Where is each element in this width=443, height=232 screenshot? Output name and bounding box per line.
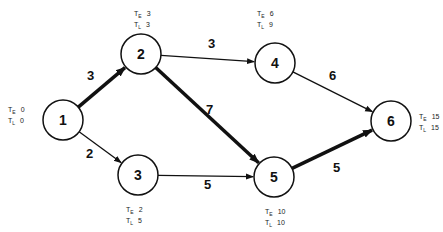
edge-weight-label: 6 — [329, 68, 336, 83]
node-1: 1TE0TL0 — [8, 100, 83, 140]
edge-weight-label: 5 — [204, 177, 211, 192]
node-label: 6 — [387, 113, 395, 129]
edge-weight-label: 5 — [333, 160, 340, 175]
edge-weight-label: 2 — [86, 146, 93, 161]
node-label: 1 — [59, 112, 67, 128]
node-label: 2 — [137, 46, 145, 62]
node-label: 4 — [271, 55, 279, 71]
early-time-label: TE3 — [134, 10, 151, 19]
early-time-label: TE15 — [419, 113, 440, 122]
edge-2-4 — [161, 55, 254, 61]
edge-1-2 — [78, 68, 125, 108]
early-time-label: TE10 — [265, 208, 286, 217]
network-diagram: 3237565 1TE0TL02TE3TL33TE2TL54TE6TL95TE1… — [0, 0, 443, 232]
node-label: 5 — [270, 169, 278, 185]
late-time-label: TL9 — [257, 21, 273, 30]
late-time-label: TL10 — [265, 219, 285, 228]
late-time-label: TL15 — [419, 124, 439, 133]
node-label: 3 — [134, 167, 142, 183]
late-time-label: TL0 — [8, 117, 24, 126]
node-5: 5TE10TL10 — [254, 157, 294, 228]
edge-weight-label: 3 — [87, 68, 94, 83]
edge-weight-label: 3 — [208, 36, 215, 51]
early-time-label: TE0 — [8, 106, 25, 115]
node-3: 3TE2TL5 — [118, 155, 158, 226]
node-6: 6TE15TL15 — [371, 101, 440, 141]
edge-weight-label: 7 — [206, 102, 213, 117]
early-time-label: TE2 — [126, 206, 143, 215]
nodes-layer: 1TE0TL02TE3TL33TE2TL54TE6TL95TE10TL106TE… — [8, 10, 440, 228]
node-4: 4TE6TL9 — [255, 10, 295, 83]
late-time-label: TL5 — [126, 217, 142, 226]
late-time-label: TL3 — [134, 21, 150, 30]
early-time-label: TE6 — [257, 10, 274, 19]
node-2: 2TE3TL3 — [121, 10, 161, 74]
